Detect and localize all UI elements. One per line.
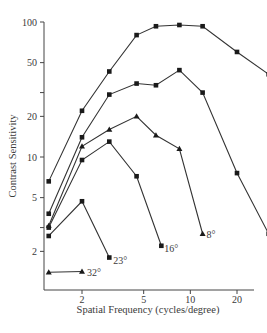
series-label: 8° [207,229,216,240]
square-marker [177,23,182,28]
series-line [49,271,82,272]
square-marker [200,90,205,95]
square-marker [235,50,240,55]
square-marker [80,108,85,113]
y-ticks: 10050201052 [22,17,44,257]
square-marker [107,92,112,97]
series-16deg: 16° [46,139,178,253]
series-line [49,142,162,246]
series-8deg: 8° [46,113,216,239]
square-marker [200,24,205,29]
series-32deg: 32° [46,267,101,278]
series-label: 23° [113,255,127,266]
square-marker [266,72,267,77]
series-label: 32° [87,267,101,278]
y-tick-label: 50 [27,57,37,68]
triangle-marker [200,231,206,236]
square-marker [46,234,51,239]
square-marker [107,255,112,260]
triangle-marker [176,146,182,151]
x-tick-label: 20 [232,294,242,305]
square-marker [134,174,139,179]
contrast-sensitivity-chart: 10050201052 251020 0°2°8°16°23°32° Spati… [0,0,267,333]
y-axis-title: Contrast Sensitivity [7,114,18,198]
square-marker [154,83,159,88]
y-tick-label: 100 [22,17,37,28]
square-marker [46,211,51,216]
series-0deg: 0° [46,23,267,184]
square-marker [107,139,112,144]
square-marker [177,68,182,73]
square-marker [266,231,267,236]
y-tick-label: 20 [27,111,37,122]
axes [44,22,254,290]
square-marker [80,135,85,140]
square-marker [107,69,112,74]
square-marker [80,199,85,204]
series-23deg: 23° [46,199,127,266]
square-marker [134,33,139,38]
series-line [49,70,267,234]
series-label: 16° [164,243,178,254]
series-2deg: 2° [46,68,267,241]
y-tick-label: 5 [32,192,37,203]
square-marker [159,243,164,248]
x-axis-title: Spatial Frequency (cycles/degree) [77,304,220,316]
x-ticks: 251020 [80,290,243,305]
square-marker [154,24,159,29]
square-marker [46,179,51,184]
triangle-marker [79,143,85,148]
square-marker [80,158,85,163]
triangle-marker [134,113,140,118]
square-marker [46,225,51,230]
series-group: 0°2°8°16°23°32° [46,23,267,279]
y-tick-label: 10 [27,152,37,163]
square-marker [134,81,139,86]
y-tick-label: 2 [32,246,37,257]
series-line [49,116,203,233]
square-marker [235,171,240,176]
